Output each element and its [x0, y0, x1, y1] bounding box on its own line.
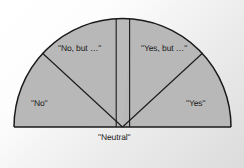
figure-container: "No, but …" "Yes, but …" "No" "Yes" "Neu…: [0, 0, 244, 168]
semicircle-diagram: [0, 0, 244, 168]
label-no: "No": [31, 99, 48, 108]
label-yes-but: "Yes, but …": [141, 44, 187, 53]
label-no-but: "No, but …": [58, 44, 101, 53]
label-neutral: "Neutral": [98, 133, 131, 142]
label-yes: "Yes": [186, 99, 205, 108]
